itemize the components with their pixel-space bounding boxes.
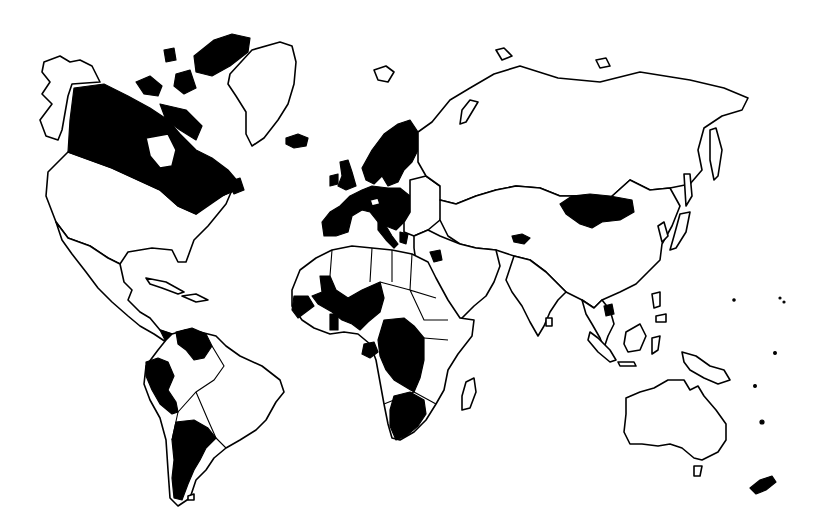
region-iceland <box>286 134 308 148</box>
region-pacific-island-5 <box>783 301 785 303</box>
region-greece <box>400 232 408 244</box>
region-severnaya <box>596 58 610 68</box>
region-australia <box>624 380 726 460</box>
region-sakhalin <box>684 174 692 206</box>
region-new-guinea <box>682 352 730 384</box>
region-pacific-island-1 <box>733 299 735 301</box>
region-new-zealand <box>750 476 776 494</box>
region-arctic-islands-4 <box>164 48 176 62</box>
region-south-america <box>144 330 284 506</box>
region-pacific-island-4 <box>779 297 781 299</box>
region-ireland <box>330 174 338 186</box>
region-scandinavia <box>362 120 418 186</box>
region-russia <box>418 66 748 204</box>
region-cambodia <box>604 304 614 316</box>
region-tasmania <box>694 466 702 476</box>
region-sri-lanka <box>546 318 552 326</box>
region-svalbard <box>374 66 394 82</box>
region-kamchatka <box>710 128 722 180</box>
region-fiji <box>760 420 764 424</box>
region-hispaniola <box>182 294 208 302</box>
region-franz-josef <box>496 48 512 60</box>
region-switzerland-gap <box>370 198 380 206</box>
region-sulawesi <box>652 336 660 354</box>
world-map: #000000 <box>0 0 824 530</box>
region-cuba <box>146 278 184 294</box>
region-falklands <box>188 494 194 500</box>
region-madagascar <box>462 378 476 410</box>
region-pacific-island-2 <box>774 352 777 355</box>
region-borneo <box>624 324 646 352</box>
region-ghana <box>330 314 338 330</box>
region-united-kingdom <box>338 160 356 190</box>
region-arctic-islands-2 <box>174 70 196 94</box>
region-philippines <box>652 292 666 322</box>
region-arctic-islands-3 <box>136 76 162 96</box>
region-pacific-island-3 <box>754 385 757 388</box>
region-java <box>618 362 636 366</box>
world-map-svg <box>0 0 824 530</box>
region-western-europe <box>322 186 410 236</box>
